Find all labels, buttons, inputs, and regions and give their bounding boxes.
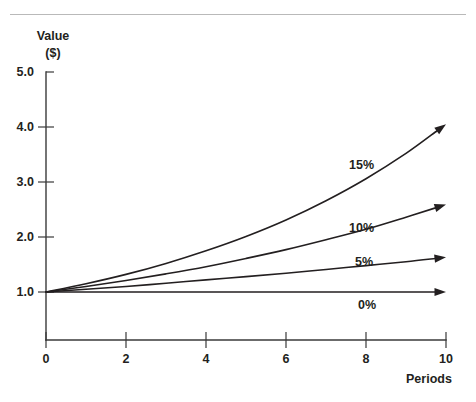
series-arrowhead-5pct (434, 255, 446, 263)
x-tick-label-0: 0 (34, 352, 58, 366)
x-tick-label-4: 4 (194, 352, 218, 366)
series-annotation-10: 10% (349, 221, 374, 235)
y-tick-label-4: 4.0 (0, 120, 34, 134)
y-tick-label-2: 2.0 (0, 230, 34, 244)
series-arrowhead-0pct (435, 288, 447, 296)
series-annotation-5: 5% (355, 255, 373, 269)
series-annotation-15: 15% (349, 158, 374, 172)
x-tick-label-8: 8 (354, 352, 378, 366)
series-curve-5pct (46, 259, 435, 292)
x-tick-label-2: 2 (114, 352, 138, 366)
plot-canvas (0, 0, 476, 402)
series-layer (46, 124, 446, 296)
x-axis-title: Periods (406, 372, 452, 386)
compound-growth-chart-figure: Value ($) 5.0 4.0 3.0 2.0 1.0 0 2 4 6 8 … (0, 0, 476, 402)
series-arrowhead-10pct (434, 204, 446, 212)
x-tick-label-10: 10 (434, 352, 458, 366)
y-tick-label-1: 1.0 (0, 285, 34, 299)
series-curve-15pct (46, 131, 437, 292)
y-tick-label-3: 3.0 (0, 175, 34, 189)
series-arrowhead-15pct (434, 124, 446, 134)
y-tick-label-5: 5.0 (0, 65, 34, 79)
x-tick-label-6: 6 (274, 352, 298, 366)
series-annotation-0: 0% (358, 298, 376, 312)
